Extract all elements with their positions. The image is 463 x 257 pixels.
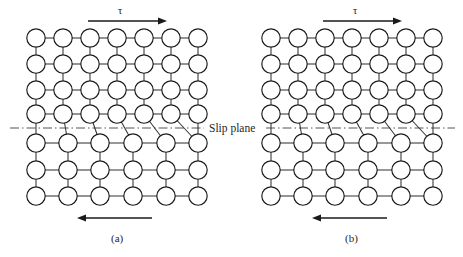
atom-dislocation-core bbox=[370, 105, 388, 123]
atom bbox=[124, 187, 142, 205]
atom bbox=[162, 55, 180, 73]
atom bbox=[359, 134, 377, 152]
panel-a-bottom-arrow-head bbox=[77, 215, 86, 222]
atom bbox=[189, 81, 207, 99]
panel-b-top-shear-arrow: τ bbox=[323, 5, 402, 25]
atom bbox=[162, 29, 180, 47]
atom bbox=[81, 105, 99, 123]
atom bbox=[316, 105, 334, 123]
atom bbox=[294, 187, 312, 205]
panel-a-bottom-shear-arrow bbox=[77, 215, 152, 222]
atom bbox=[392, 161, 410, 179]
atom bbox=[424, 55, 442, 73]
atom bbox=[370, 29, 388, 47]
atom bbox=[316, 81, 334, 99]
atom bbox=[54, 105, 72, 123]
atom bbox=[54, 55, 72, 73]
figure-container: Slip plane τ bbox=[0, 0, 463, 257]
atom bbox=[108, 81, 126, 99]
atom bbox=[294, 161, 312, 179]
panel-a-caption: (a) bbox=[111, 232, 124, 245]
atom bbox=[359, 161, 377, 179]
atom bbox=[189, 55, 207, 73]
atom bbox=[91, 161, 109, 179]
atom bbox=[59, 161, 77, 179]
atom bbox=[157, 161, 175, 179]
panel-a-bonds-upper bbox=[36, 38, 198, 114]
atom bbox=[189, 187, 207, 205]
atom bbox=[157, 187, 175, 205]
atom bbox=[289, 55, 307, 73]
atom bbox=[124, 134, 142, 152]
atom bbox=[316, 29, 334, 47]
atom bbox=[262, 161, 280, 179]
atom bbox=[289, 81, 307, 99]
atom bbox=[392, 187, 410, 205]
atom bbox=[189, 29, 207, 47]
atom bbox=[392, 134, 410, 152]
panel-b-tau-label: τ bbox=[353, 5, 357, 16]
atom bbox=[135, 55, 153, 73]
atom bbox=[343, 105, 361, 123]
dislocation-diagram-svg: Slip plane τ bbox=[0, 0, 463, 257]
atom bbox=[54, 29, 72, 47]
panel-a: τ bbox=[27, 5, 207, 245]
atom bbox=[343, 55, 361, 73]
atom bbox=[359, 187, 377, 205]
atom bbox=[27, 105, 45, 123]
panel-a-tau-label: τ bbox=[118, 5, 122, 16]
atom bbox=[91, 134, 109, 152]
atom bbox=[424, 105, 442, 123]
atom bbox=[397, 105, 415, 123]
atom bbox=[59, 187, 77, 205]
panel-b-bonds-upper bbox=[271, 38, 433, 114]
panel-a-top-arrow-head bbox=[158, 18, 167, 25]
atom bbox=[27, 134, 45, 152]
slip-plane-label: Slip plane bbox=[209, 122, 255, 135]
atom bbox=[27, 55, 45, 73]
atom bbox=[189, 134, 207, 152]
atom bbox=[27, 187, 45, 205]
atom bbox=[424, 161, 442, 179]
atom bbox=[135, 105, 153, 123]
atom-dislocation-core bbox=[108, 105, 126, 123]
atom bbox=[397, 55, 415, 73]
atom bbox=[326, 161, 344, 179]
atom bbox=[294, 134, 312, 152]
panel-b-bottom-arrow-head bbox=[312, 215, 321, 222]
atom bbox=[370, 55, 388, 73]
atom bbox=[81, 29, 99, 47]
atom bbox=[262, 105, 280, 123]
atom bbox=[316, 55, 334, 73]
atom bbox=[135, 81, 153, 99]
atom bbox=[262, 55, 280, 73]
atom bbox=[262, 81, 280, 99]
atom bbox=[81, 81, 99, 99]
panel-a-top-shear-arrow: τ bbox=[88, 5, 167, 25]
atom bbox=[326, 187, 344, 205]
panel-b-bottom-shear-arrow bbox=[312, 215, 387, 222]
atom bbox=[326, 134, 344, 152]
panel-b-top-arrow-head bbox=[393, 18, 402, 25]
atom bbox=[54, 81, 72, 99]
atom bbox=[27, 81, 45, 99]
atom bbox=[424, 187, 442, 205]
atom bbox=[91, 187, 109, 205]
atom bbox=[397, 81, 415, 99]
atom bbox=[289, 29, 307, 47]
atom bbox=[397, 29, 415, 47]
atom bbox=[262, 134, 280, 152]
atom bbox=[424, 134, 442, 152]
panel-b-caption: (b) bbox=[345, 232, 358, 245]
atom bbox=[343, 29, 361, 47]
atom bbox=[162, 81, 180, 99]
atom bbox=[189, 105, 207, 123]
atom bbox=[135, 29, 153, 47]
atom bbox=[262, 187, 280, 205]
atom bbox=[343, 81, 361, 99]
atom bbox=[108, 55, 126, 73]
atom bbox=[59, 134, 77, 152]
atom bbox=[289, 105, 307, 123]
atom bbox=[27, 29, 45, 47]
atom bbox=[27, 161, 45, 179]
